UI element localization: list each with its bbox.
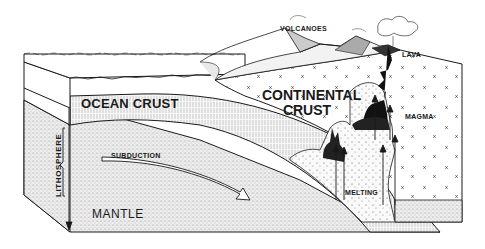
label-continental-crust: CONTINENTAL CRUST xyxy=(262,88,352,118)
label-continental-line2: CRUST xyxy=(262,103,352,118)
label-lithosphere: LITHOSPHERE xyxy=(55,134,63,198)
label-magma: MAGMA xyxy=(405,113,434,120)
subduction-diagram: x x xyxy=(0,0,485,249)
label-volcanoes: VOLCANOES xyxy=(280,25,327,32)
label-ocean-crust: OCEAN CRUST xyxy=(81,97,179,110)
label-melting: MELTING xyxy=(345,189,378,196)
label-mantle: MANTLE xyxy=(92,208,144,220)
label-subduction: SUBDUCTION xyxy=(111,152,161,159)
label-continental-line1: CONTINENTAL xyxy=(262,88,352,103)
label-lava: LAVA xyxy=(402,51,421,58)
